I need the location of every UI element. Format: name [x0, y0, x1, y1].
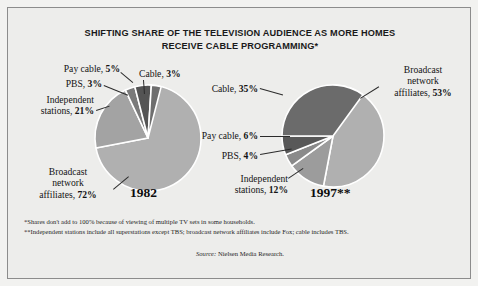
label-1997-pbs-text: PBS,	[222, 150, 244, 161]
label-1982-independent-value: 21%	[75, 105, 94, 116]
label-1982-cable: Cable, 3%	[139, 68, 181, 79]
figure-page: SHIFTING SHARE OF THE TELEVISION AUDIENC…	[0, 0, 478, 286]
label-1982-pay-cable-text: Pay cable,	[64, 63, 106, 74]
footnote-1: *Shares don't add to 100% because of vie…	[24, 217, 255, 227]
year-label-1997: 1997**	[310, 185, 351, 201]
label-1997-broadcast: Broadcast network affiliates, 53%	[382, 64, 464, 98]
chart-title-line-2: RECEIVE CABLE PROGRAMMING*	[8, 40, 472, 53]
label-1997-independent-line-2: stations,	[235, 184, 269, 195]
label-1997-cable-text: Cable,	[212, 83, 239, 94]
year-label-1982: 1982	[130, 185, 157, 201]
pie-chart-1997	[273, 76, 393, 196]
label-1982-independent-line-1: Independent	[14, 94, 94, 105]
label-1997-pbs: PBS, 4%	[190, 150, 258, 161]
label-1997-broadcast-line-1: Broadcast	[382, 64, 464, 75]
label-1982-pbs-value: 3%	[88, 78, 102, 89]
label-1982-pay-cable-value: 5%	[106, 63, 120, 74]
label-1982-broadcast-line-1: Broadcast	[26, 166, 110, 177]
label-1997-independent-line-1: Independent	[204, 173, 288, 184]
label-1982-independent: Independent stations, 21%	[14, 94, 94, 117]
label-1997-pbs-value: 4%	[244, 150, 258, 161]
label-1982-broadcast: Broadcast network affiliates, 72%	[26, 166, 110, 200]
figure-frame: SHIFTING SHARE OF THE TELEVISION AUDIENC…	[7, 7, 471, 279]
footnote-2: **Independent stations include all super…	[24, 227, 349, 237]
pie-1997-svg	[273, 76, 393, 196]
label-1997-independent-value: 12%	[269, 184, 288, 195]
source-label: Source:	[196, 250, 216, 257]
label-1997-broadcast-line-3: affiliates,	[394, 87, 432, 98]
label-1997-independent: Independent stations, 12%	[204, 173, 288, 196]
label-1997-cable-value: 35%	[239, 83, 258, 94]
label-1982-pbs-text: PBS,	[66, 78, 88, 89]
label-1997-broadcast-value: 53%	[433, 87, 452, 98]
label-1982-pay-cable: Pay cable, 5%	[34, 63, 120, 74]
label-1982-cable-value: 3%	[166, 68, 180, 79]
label-1982-cable-text: Cable,	[139, 68, 166, 79]
chart-title: SHIFTING SHARE OF THE TELEVISION AUDIENC…	[8, 27, 472, 52]
label-1982-broadcast-value: 72%	[78, 189, 97, 200]
label-1982-pbs: PBS, 3%	[26, 78, 102, 89]
chart-title-line-1: SHIFTING SHARE OF THE TELEVISION AUDIENC…	[8, 27, 472, 40]
label-1982-independent-line-2: stations,	[41, 105, 75, 116]
label-1997-broadcast-line-2: network	[382, 75, 464, 86]
source-line: Source: Nielsen Media Research.	[8, 250, 472, 257]
label-1997-pay-cable-text: Pay cable,	[202, 130, 244, 141]
label-1982-broadcast-line-3: affiliates,	[39, 189, 77, 200]
leader-line-1997-pay-cable	[260, 136, 290, 137]
source-text: Nielsen Media Research.	[216, 250, 284, 257]
label-1982-broadcast-line-2: network	[26, 177, 110, 188]
label-1997-pay-cable: Pay cable, 6%	[180, 130, 258, 141]
label-1997-pay-cable-value: 6%	[244, 130, 258, 141]
label-1997-cable: Cable, 35%	[186, 83, 258, 94]
